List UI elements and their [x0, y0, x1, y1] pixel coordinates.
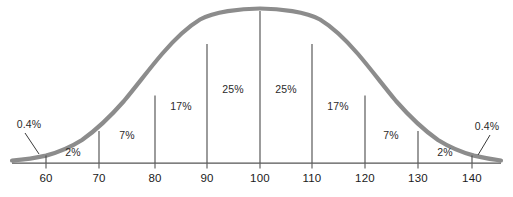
band-divider-lines — [46, 11, 472, 163]
x-axis-tick-labels: 60 70 80 90 100 110 120 130 140 — [39, 172, 482, 184]
leader-line-left — [25, 133, 39, 154]
x-axis-tick-marks — [46, 163, 472, 168]
tail-label-right: 0.4% — [475, 120, 500, 132]
chart-canvas: 60 70 80 90 100 110 120 130 140 2% 7% 17… — [0, 0, 513, 197]
band-label-7-left: 7% — [119, 129, 135, 141]
tick-label-80: 80 — [148, 172, 161, 184]
tick-label-60: 60 — [39, 172, 52, 184]
tick-label-110: 110 — [303, 172, 322, 184]
bell-curve-path — [12, 9, 501, 161]
leader-line-right — [478, 135, 490, 155]
band-label-25-right: 25% — [275, 83, 297, 95]
band-label-25-left: 25% — [222, 83, 244, 95]
band-label-7-right: 7% — [383, 129, 399, 141]
tick-label-70: 70 — [92, 172, 105, 184]
tick-label-90: 90 — [200, 172, 213, 184]
band-percentage-labels: 2% 7% 17% 25% 25% 17% 7% 2% — [65, 83, 453, 158]
normal-distribution-chart: 60 70 80 90 100 110 120 130 140 2% 7% 17… — [0, 0, 513, 197]
tick-label-130: 130 — [408, 172, 428, 184]
band-label-17-left: 17% — [170, 100, 192, 112]
tick-label-100: 100 — [250, 172, 270, 184]
band-label-2-left: 2% — [65, 146, 81, 158]
tail-label-left: 0.4% — [17, 118, 42, 130]
band-label-17-right: 17% — [327, 100, 349, 112]
tick-label-140: 140 — [462, 172, 482, 184]
band-label-2-right: 2% — [437, 146, 453, 158]
leader-lines — [25, 133, 490, 155]
tick-label-120: 120 — [355, 172, 375, 184]
